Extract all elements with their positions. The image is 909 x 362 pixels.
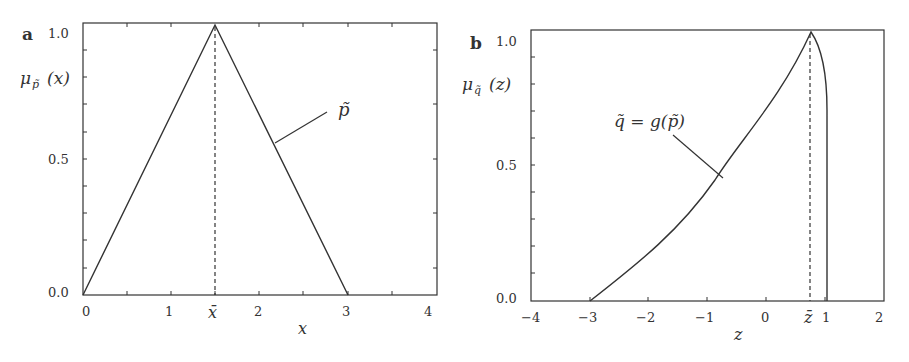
ylabel-a-mu: μ <box>20 68 31 88</box>
ytick-b-0.0: 0.0 <box>496 291 517 306</box>
ytick-a-1.0: 1.0 <box>48 26 69 41</box>
panel-label-b: b <box>470 33 482 53</box>
ylabel-b-arg: (z) <box>489 74 511 94</box>
ytick-a-0.0: 0.0 <box>48 285 69 300</box>
xtick-b-2: 2 <box>875 310 883 325</box>
ytick-b-0.5: 0.5 <box>496 158 517 173</box>
zbar-label: z̄ <box>803 308 813 327</box>
panel-b: b 1.0 0.5 0.0 μ q̃ (z) −4 −3 −2 −1 0 1 2… <box>462 30 884 344</box>
plot-frame-a <box>83 23 437 295</box>
curve-label-a: p̃ <box>338 99 350 120</box>
ytick-b-1.0: 1.0 <box>496 34 517 49</box>
xbar-label: x̄ <box>208 303 217 322</box>
xtick-b-1: 1 <box>822 310 830 325</box>
ylabel-b-mu: μ <box>462 74 473 94</box>
curve-label-b: q̃ = g(p̃) <box>614 111 685 131</box>
ylabel-b-sub: q̃ <box>474 84 481 97</box>
xtick-a-3: 3 <box>342 304 350 319</box>
xtick-a-0: 0 <box>82 304 90 319</box>
curve-label-pointer-a <box>275 112 327 143</box>
ylabel-a-sub: p̃ <box>32 78 39 91</box>
xtick-a-2: 2 <box>254 304 262 319</box>
xtick-b-neg3: −3 <box>578 310 597 325</box>
plot-frame-b <box>531 30 884 301</box>
xtick-b-neg4: −4 <box>521 310 540 325</box>
xtick-b-neg2: −2 <box>636 310 655 325</box>
xtick-b-0: 0 <box>761 310 769 325</box>
panel-a: a 1.0 0.5 0.0 μ p̃ (x) 0 1 2 3 4 x̄ x p̃ <box>20 23 437 338</box>
xtick-a-1: 1 <box>165 304 173 319</box>
xlabel-b: z <box>733 325 743 344</box>
panel-label-a: a <box>22 24 33 44</box>
curve-q-tilde <box>590 32 827 301</box>
ytick-a-0.5: 0.5 <box>48 152 69 167</box>
x-ticks-a <box>127 23 437 295</box>
curve-label-pointer-b <box>673 135 723 178</box>
figure: a 1.0 0.5 0.0 μ p̃ (x) 0 1 2 3 4 x̄ x p̃ <box>0 0 909 362</box>
ylabel-a-arg: (x) <box>47 68 70 88</box>
xtick-a-4: 4 <box>424 304 432 319</box>
xlabel-a: x <box>298 319 307 338</box>
xtick-b-neg1: −1 <box>695 310 714 325</box>
